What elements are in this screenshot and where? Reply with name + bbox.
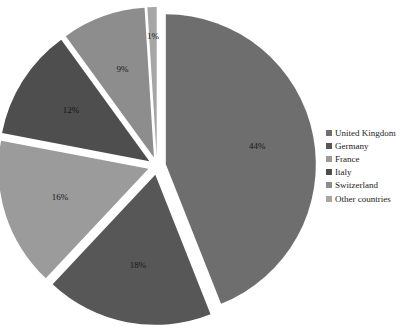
legend-swatch-icon <box>326 130 332 136</box>
legend-swatch-icon <box>326 182 332 188</box>
legend-item[interactable]: Germany <box>326 139 416 152</box>
legend-item[interactable]: Italy <box>326 166 416 179</box>
legend-item-label: Italy <box>335 167 352 177</box>
legend-item[interactable]: Switzerland <box>326 179 416 192</box>
legend-item-label: Other countries <box>335 194 391 204</box>
pie-chart: ——— —— ———— ————— 44%18%16%12%9%1% Unite… <box>0 0 418 335</box>
legend-item-label: Germany <box>335 141 369 151</box>
legend-swatch-icon <box>326 156 332 162</box>
legend-swatch-icon <box>326 169 332 175</box>
legend-item-label: France <box>335 154 360 164</box>
legend-item-label: United Kingdom <box>335 128 396 138</box>
pie-slice-label: 12% <box>63 105 80 115</box>
pie-slice-label: 18% <box>130 260 147 270</box>
pie-slice-label: 44% <box>249 141 266 151</box>
legend-item-label: Switzerland <box>335 180 378 190</box>
legend-item[interactable]: Other countries <box>326 192 416 205</box>
legend-swatch-icon <box>326 143 332 149</box>
pie-slice-label: 9% <box>116 64 129 74</box>
pie-slices-group <box>0 7 316 325</box>
legend-swatch-icon <box>326 196 332 202</box>
pie-slice-label: 1% <box>147 31 160 41</box>
legend-item[interactable]: France <box>326 152 416 165</box>
pie-slice-label: 16% <box>52 192 69 202</box>
chart-legend: United KingdomGermanyFranceItalySwitzerl… <box>326 126 416 205</box>
legend-item[interactable]: United Kingdom <box>326 126 416 139</box>
